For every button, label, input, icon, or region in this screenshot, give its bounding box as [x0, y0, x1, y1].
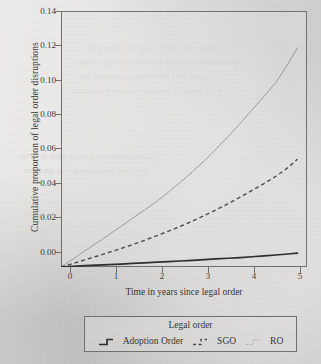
y-axis-tick-labels: 0.14 0.12 0.10 0.08 0.06 0.04 0.02 0.00 — [24, 0, 56, 364]
legend-label: Adoption Order — [123, 336, 183, 347]
x-tick-label: 5 — [290, 271, 310, 281]
legend-item-adoption-order[interactable]: Adoption Order — [98, 336, 183, 347]
series-line-sgo — [61, 159, 297, 267]
y-tick-mark — [55, 217, 61, 218]
solid-step-line-icon — [98, 337, 120, 347]
x-tick-label: 4 — [244, 271, 264, 281]
series-line-ro — [61, 48, 297, 267]
x-tick-label: 3 — [198, 271, 218, 281]
legend-entries: Adoption Order SGO RO — [85, 333, 296, 350]
x-tick-label: 2 — [152, 271, 172, 281]
x-tick-label: 0 — [60, 271, 80, 281]
y-axis-title: Cumulative proportion of legal order dis… — [30, 12, 40, 262]
legend-item-ro[interactable]: RO — [245, 336, 283, 347]
dashed-step-line-icon — [192, 337, 214, 347]
legend-label: SGO — [217, 336, 236, 347]
dotted-step-line-icon — [245, 337, 267, 347]
y-tick-mark — [55, 148, 61, 149]
legend-title: Legal order — [85, 317, 296, 333]
y-tick-mark — [55, 80, 61, 81]
x-tick-label: 1 — [106, 271, 126, 281]
y-tick-mark — [55, 11, 61, 12]
y-tick-mark — [55, 183, 61, 184]
chart-canvas — [61, 11, 307, 267]
legend-item-sgo[interactable]: SGO — [192, 336, 236, 347]
series-line-adoption-order — [61, 253, 297, 267]
legend-box: Legal order Adoption Order SGO RO — [84, 316, 297, 352]
scanned-figure-page: the process of legal order disruption co… — [0, 0, 321, 364]
y-tick-mark — [55, 114, 61, 115]
y-tick-mark — [55, 252, 61, 253]
series-paths — [61, 48, 297, 267]
x-axis-title: Time in years since legal order — [61, 287, 307, 297]
y-tick-mark — [55, 45, 61, 46]
legend-label: RO — [270, 336, 283, 347]
